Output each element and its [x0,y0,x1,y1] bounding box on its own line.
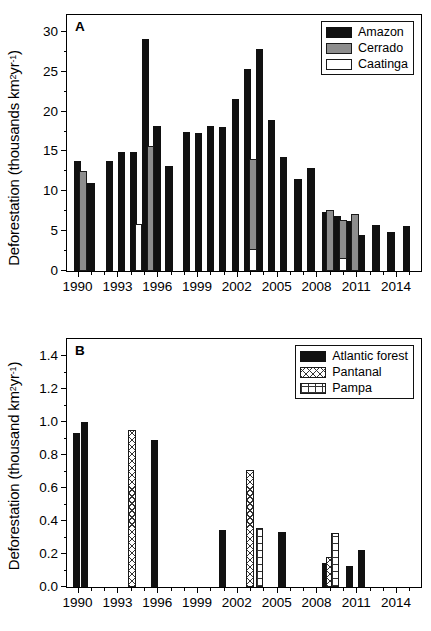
y-tick [61,31,67,32]
x-tick-minor [303,271,304,275]
bar-atlantic-forest [346,566,354,587]
x-tick-minor [383,271,384,275]
x-tick-label: 2002 [222,279,252,294]
x-tick-label: 2005 [262,595,292,610]
x-tick-minor [171,587,172,591]
bar-caatinga [339,258,347,271]
legend-label-pampa: Pampa [332,381,372,395]
x-tick [316,271,317,277]
y-tick [61,71,67,72]
bar-amazon [165,166,173,271]
legend-label-amazon: Amazon [358,25,404,39]
x-tick-minor [210,271,211,275]
y-tick [61,270,67,271]
x-tick [78,587,79,593]
x-tick-minor [250,271,251,275]
y-tick-label: 1.0 [39,414,58,429]
y-title-part3: ) [5,362,22,367]
x-tick-label: 2005 [262,279,292,294]
y-tick-label: 1.2 [39,381,58,396]
bar-amazon [87,183,95,271]
y-tick-minor [64,210,68,211]
bar-amazon [280,157,288,271]
bar-caatinga [135,224,143,271]
x-tick-minor [131,271,132,275]
panel-a: Deforestation (thousands km2 yr-1) 05101… [0,0,431,316]
bar-amazon [153,126,161,271]
x-tick [157,587,158,593]
panel-b-y-axis-title: Deforestation (thousand km2 yr-1) [0,316,26,616]
bar-amazon [256,49,264,271]
x-tick-minor [343,271,344,275]
x-tick-minor [370,587,371,591]
y-title-part1: Deforestation (thousands km [5,79,22,265]
y-tick [61,586,67,587]
bar-amazon [207,126,215,271]
x-tick [237,587,238,593]
legend-label-pantanal: Pantanal [332,365,381,379]
bar-atlantic-forest [358,550,366,587]
bar-amazon [358,235,366,271]
y-tick-label: 1.4 [39,348,58,363]
x-tick-minor [104,271,105,275]
x-tick-minor [184,587,185,591]
bar-atlantic-forest [219,530,227,587]
panel-a-plot-frame: 0510152025301990199319961999200220052008… [66,14,422,272]
panel-b-letter: B [75,343,85,358]
bar-atlantic-forest [81,422,89,587]
bar-amazon [118,152,126,271]
y-title-sup2: -1 [8,55,18,63]
y-tick-minor [64,504,68,505]
y-title-part2: yr [5,374,22,386]
x-tick-minor [144,587,145,591]
y-title-part3: ) [5,50,22,55]
x-tick-minor [263,587,264,591]
y-tick [61,111,67,112]
x-tick-label: 2014 [381,595,411,610]
x-tick-minor [184,271,185,275]
x-tick-minor [409,271,410,275]
y-title-part1: Deforestation (thousand km [5,391,22,570]
bar-cerrado [326,210,334,271]
x-tick-minor [303,587,304,591]
x-tick-label: 1999 [182,279,212,294]
y-tick-label: 0.0 [39,579,58,594]
panel-a-legend: Amazon Cerrado Caatinga [321,21,414,75]
y-tick-minor [64,438,68,439]
panel-b-plot-frame: 0.00.20.40.60.81.01.21.41990199319961999… [66,338,422,588]
y-tick-minor [64,372,68,373]
y-tick-label: 0 [50,263,58,278]
panel-b-legend: Atlantic forest Pantanal Pampa [295,345,414,399]
y-tick-minor [64,91,68,92]
legend-item: Pampa [300,381,408,395]
x-tick-minor [104,587,105,591]
legend-label-caatinga: Caatinga [358,57,408,71]
x-tick-label: 2011 [342,279,371,294]
y-tick-minor [64,250,68,251]
x-tick-minor [131,587,132,591]
x-tick-label: 1990 [63,279,93,294]
x-tick-label: 2014 [381,279,411,294]
legend-swatch-caatinga [326,59,352,70]
legend-label-cerrado: Cerrado [358,41,403,55]
y-tick-minor [64,537,68,538]
x-tick [356,587,357,593]
x-tick [78,271,79,277]
x-tick-label: 1993 [102,279,132,294]
x-tick [277,587,278,593]
x-tick-minor [290,587,291,591]
y-tick-minor [64,570,68,571]
legend-item: Pantanal [300,365,408,379]
x-tick-label: 2008 [301,595,331,610]
y-tick [61,190,67,191]
x-tick-minor [224,271,225,275]
panel-b: Deforestation (thousand km2 yr-1) 0.00.2… [0,316,431,631]
y-tick-minor [64,471,68,472]
legend-label-atlantic-forest: Atlantic forest [332,349,408,363]
bar-amazon [183,132,191,271]
y-tick-label: 10 [43,183,58,198]
bar-atlantic-forest [73,433,81,587]
x-tick-minor [210,587,211,591]
y-tick-label: 15 [43,143,58,158]
x-tick-minor [330,271,331,275]
